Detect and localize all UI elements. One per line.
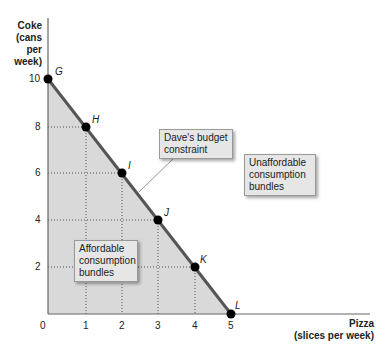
x-tick-5: 5 — [228, 320, 234, 331]
point-k — [191, 263, 200, 272]
unaffordable-label-line: consumption — [249, 169, 311, 181]
affordable-label-line: Affordable — [79, 243, 133, 255]
budget-leader-line — [139, 154, 178, 192]
point-label-l: L — [235, 300, 241, 311]
point-label-i: I — [128, 160, 131, 171]
point-label-h: H — [92, 114, 99, 125]
point-h — [82, 123, 91, 132]
point-i — [118, 169, 127, 178]
x-title-line: (slices per week) — [270, 330, 374, 342]
y-title-line: (cans — [10, 32, 42, 44]
x-tick-1: 1 — [83, 320, 89, 331]
x-tick-0: 0 — [40, 320, 46, 331]
point-label-g: G — [55, 66, 63, 77]
y-title-line: Coke — [10, 20, 42, 32]
y-title-line: per — [10, 44, 42, 56]
y-tick-4: 4 — [35, 214, 41, 225]
x-tick-2: 2 — [119, 320, 125, 331]
point-label-k: K — [200, 254, 207, 265]
y-tick-10: 10 — [29, 73, 40, 84]
y-tick-6: 6 — [35, 167, 41, 178]
x-title-line: Pizza — [270, 318, 374, 330]
unaffordable-label: Unaffordable consumption bundles — [244, 154, 316, 196]
y-tick-2: 2 — [35, 261, 41, 272]
x-tick-4: 4 — [192, 320, 198, 331]
y-title-line: week) — [10, 56, 42, 68]
budget-label-line: constraint — [164, 144, 228, 156]
y-axis-title: Coke (cans per week) — [10, 20, 42, 68]
unaffordable-label-line: bundles — [249, 181, 311, 193]
x-axis-title: Pizza (slices per week) — [270, 318, 374, 342]
point-label-j: J — [164, 207, 169, 218]
affordable-label-line: bundles — [79, 267, 133, 279]
point-j — [154, 216, 163, 225]
y-tick-8: 8 — [35, 121, 41, 132]
affordable-label-line: consumption — [79, 255, 133, 267]
x-tick-3: 3 — [155, 320, 161, 331]
budget-constraint-label: Dave's budget constraint — [159, 129, 233, 159]
affordable-label: Affordable consumption bundles — [74, 240, 138, 282]
unaffordable-label-line: Unaffordable — [249, 157, 311, 169]
chart-canvas — [0, 0, 389, 357]
budget-label-line: Dave's budget — [164, 132, 228, 144]
point-g — [44, 75, 53, 84]
